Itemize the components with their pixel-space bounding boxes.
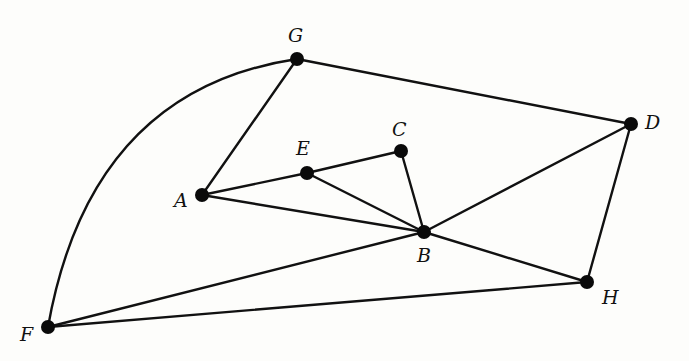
graph-diagram: G D C E A B H F [0,0,689,361]
node-g [290,52,304,66]
edge-e-c [307,151,401,173]
edge-a-b [202,195,424,232]
node-h [580,275,594,289]
label-d: D [644,111,660,133]
edge-a-e [202,173,307,195]
label-e: E [295,137,310,159]
label-h: H [601,286,619,308]
nodes [41,52,638,334]
node-a [195,188,209,202]
label-g: G [288,24,303,46]
node-d [624,117,638,131]
edge-g-f-curve [48,59,297,327]
labels: G D C E A B H F [19,24,660,345]
edge-f-h [48,282,587,327]
label-b: B [416,244,431,266]
edge-b-f [48,232,424,327]
edge-c-b [401,151,424,232]
edge-b-h [424,232,587,282]
edge-b-d [424,124,631,232]
edge-g-d [297,59,631,124]
node-c [394,144,408,158]
edges [48,59,631,327]
node-f [41,320,55,334]
edge-g-a [202,59,297,195]
label-c: C [392,118,407,140]
label-f: F [19,323,34,345]
node-b [417,225,431,239]
node-e [300,166,314,180]
edge-d-h [587,124,631,282]
label-a: A [172,189,188,211]
